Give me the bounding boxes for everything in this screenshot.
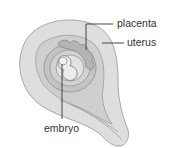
uterus-embryo-diagram: placenta uterus embryo xyxy=(0,0,169,148)
placenta-label: placenta xyxy=(117,18,157,29)
embryo-head xyxy=(59,57,67,65)
uterus-label: uterus xyxy=(127,37,156,48)
embryo-label: embryo xyxy=(44,123,79,134)
